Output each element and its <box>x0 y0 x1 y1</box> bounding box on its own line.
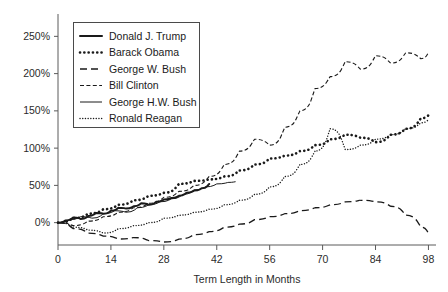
series-line-ronald-reagan <box>58 120 428 233</box>
y-axis-ticks: 0%50%100%150%200%250% <box>23 30 58 228</box>
series-line-george-h-w-bush <box>58 182 236 223</box>
x-tick-label: 84 <box>370 253 382 265</box>
x-tick-label: 98 <box>423 253 435 265</box>
x-tick-label: 14 <box>105 253 117 265</box>
x-tick-label: 70 <box>317 253 329 265</box>
legend-label: Barack Obama <box>109 46 179 58</box>
legend-label: George H.W. Bush <box>109 96 197 108</box>
y-tick-label: 100% <box>23 142 50 154</box>
legend-label: Bill Clinton <box>109 79 159 91</box>
y-tick-label: 250% <box>23 30 50 42</box>
x-tick-label: 28 <box>158 253 170 265</box>
y-tick-label: 50% <box>29 179 50 191</box>
y-tick-label: 0% <box>35 216 50 228</box>
legend-label: Ronald Reagan <box>109 112 182 124</box>
series-line-george-w-bush <box>58 200 428 242</box>
x-axis-title: Term Length in Months <box>194 273 301 285</box>
legend-label: Donald J. Trump <box>109 30 186 42</box>
x-tick-label: 56 <box>264 253 276 265</box>
legend-label: George W. Bush <box>109 63 186 75</box>
series-line-barack-obama <box>58 115 428 222</box>
x-tick-label: 42 <box>211 253 223 265</box>
chart-container: 0%50%100%150%200%250% 014284256708498 Te… <box>0 0 448 292</box>
y-tick-label: 200% <box>23 67 50 79</box>
x-axis-ticks: 014284256708498 <box>55 245 434 265</box>
chart-legend: Donald J. TrumpBarack ObamaGeorge W. Bus… <box>74 23 200 128</box>
line-chart: 0%50%100%150%200%250% 014284256708498 Te… <box>0 0 448 292</box>
y-tick-label: 150% <box>23 104 50 116</box>
x-tick-label: 0 <box>55 253 61 265</box>
